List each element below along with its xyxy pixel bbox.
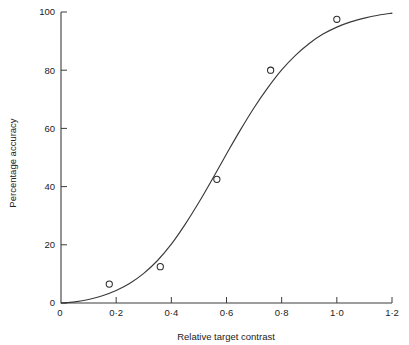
- x-tick-label-0.6: 0·6: [220, 307, 234, 318]
- plot-area: 020406080100 00·20·40·60·81·01·2: [39, 6, 399, 318]
- y-tick-label-40: 40: [44, 181, 55, 192]
- x-axis-tick-labels: 00·20·40·60·81·01·2: [57, 307, 399, 318]
- data-point-markers: [106, 16, 340, 287]
- data-point-marker: [268, 67, 274, 73]
- y-tick-label-60: 60: [44, 123, 55, 134]
- y-tick-label-80: 80: [44, 65, 55, 76]
- chart-canvas: 020406080100 00·20·40·60·81·01·2 Relativ…: [0, 0, 409, 345]
- y-axis-ticks: [61, 12, 67, 303]
- x-tick-label-1: 1·0: [330, 307, 344, 318]
- data-point-marker: [106, 281, 112, 287]
- y-tick-label-20: 20: [44, 239, 55, 250]
- data-point-marker: [214, 176, 220, 182]
- x-tick-label-0: 0: [57, 307, 62, 318]
- x-tick-label-0.8: 0·8: [275, 307, 289, 318]
- x-tick-label-0.2: 0·2: [109, 307, 123, 318]
- y-tick-label-0: 0: [50, 297, 55, 308]
- y-axis-tick-labels: 020406080100: [39, 6, 55, 308]
- y-tick-label-100: 100: [39, 6, 55, 17]
- data-point-marker: [334, 16, 340, 22]
- x-tick-label-1.2: 1·2: [385, 307, 399, 318]
- figure-container: 020406080100 00·20·40·60·81·01·2 Relativ…: [0, 0, 409, 345]
- x-axis-ticks: [116, 297, 392, 303]
- x-axis-title: Relative target contrast: [177, 331, 275, 342]
- x-tick-label-0.4: 0·4: [164, 307, 178, 318]
- data-point-marker: [157, 264, 163, 270]
- y-axis-title: Percentage accuracy: [7, 118, 18, 207]
- fitted-curve-line: [61, 13, 392, 303]
